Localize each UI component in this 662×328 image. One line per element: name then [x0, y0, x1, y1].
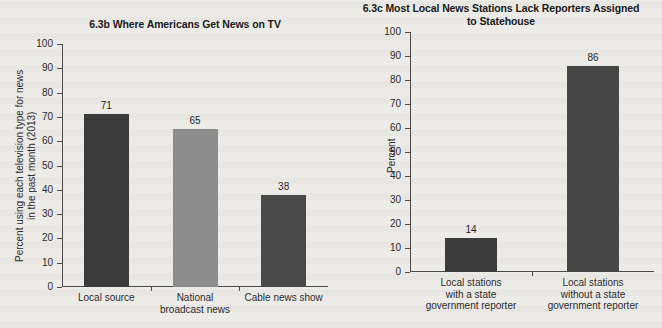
y-tick	[57, 287, 62, 288]
y-axis-line-6-3b	[62, 44, 63, 287]
y-tick	[405, 152, 410, 153]
y-axis-label-6-3b: Percent using each television type for n…	[14, 46, 40, 286]
y-tick-label: 40	[42, 185, 53, 195]
y-tick	[405, 56, 410, 57]
y-tick-label: 80	[390, 75, 401, 85]
x-category-label: National broadcast news	[151, 292, 240, 315]
bar: 14	[445, 238, 497, 272]
bar-value-label: 86	[567, 53, 619, 63]
x-category-label: Local stations with a state government r…	[410, 277, 532, 312]
plot-area-6-3b: 0102030405060708090100 716538	[62, 44, 328, 287]
y-tick	[405, 104, 410, 105]
y-tick-label: 20	[390, 219, 401, 229]
y-tick-label: 50	[42, 161, 53, 171]
figure-6-3c: 6.3c Most Local News Stations Lack Repor…	[340, 0, 662, 328]
bar-value-label: 14	[445, 225, 497, 235]
y-tick	[405, 128, 410, 129]
y-tick	[57, 68, 62, 69]
bar: 38	[261, 195, 306, 287]
chart-title-6-3b: 6.3b Where Americans Get News on TV	[40, 18, 330, 31]
y-tick-label: 0	[47, 282, 53, 292]
figure-6-3b: 6.3b Where Americans Get News on TV Perc…	[0, 0, 340, 328]
y-tick	[405, 200, 410, 201]
chart-title-6-3c: 6.3c Most Local News Stations Lack Repor…	[360, 2, 642, 27]
y-tick	[57, 141, 62, 142]
y-axis-line-6-3c	[410, 32, 411, 272]
y-tick	[57, 166, 62, 167]
y-tick-label: 100	[384, 27, 401, 37]
y-tick-label: 70	[42, 112, 53, 122]
y-tick-label: 90	[42, 63, 53, 73]
y-tick	[57, 263, 62, 264]
y-tick-label: 10	[390, 243, 401, 253]
x-category-label: Local source	[62, 292, 151, 304]
y-tick-label: 40	[390, 171, 401, 181]
bar: 65	[173, 129, 218, 287]
y-tick-label: 90	[390, 51, 401, 61]
y-tick	[405, 80, 410, 81]
y-tick-label: 30	[390, 195, 401, 205]
y-tick	[57, 190, 62, 191]
y-tick-label: 10	[42, 258, 53, 268]
bar-value-label: 38	[261, 182, 306, 192]
y-tick	[405, 32, 410, 33]
y-tick	[57, 117, 62, 118]
x-tick	[532, 272, 533, 276]
x-tick	[151, 287, 152, 291]
x-tick	[239, 287, 240, 291]
y-tick-label: 30	[42, 209, 53, 219]
x-category-label: Cable news show	[239, 292, 328, 304]
y-tick-label: 60	[390, 123, 401, 133]
y-tick-label: 50	[390, 147, 401, 157]
y-tick-label: 100	[36, 39, 53, 49]
y-tick	[405, 224, 410, 225]
y-tick-label: 0	[395, 267, 401, 277]
y-tick-label: 80	[42, 88, 53, 98]
y-tick	[405, 176, 410, 177]
y-tick	[57, 93, 62, 94]
bar-value-label: 65	[173, 116, 218, 126]
y-tick	[405, 272, 410, 273]
bar-value-label: 71	[84, 101, 129, 111]
y-tick	[57, 238, 62, 239]
y-tick	[405, 248, 410, 249]
y-tick-label: 70	[390, 99, 401, 109]
y-tick	[57, 214, 62, 215]
y-tick-label: 60	[42, 136, 53, 146]
bar: 71	[84, 114, 129, 287]
x-category-label: Local stations without a state governmen…	[532, 277, 654, 312]
plot-area-6-3c: 0102030405060708090100 1486	[410, 32, 654, 272]
y-tick-label: 20	[42, 233, 53, 243]
bar: 86	[567, 66, 619, 272]
y-tick	[57, 44, 62, 45]
